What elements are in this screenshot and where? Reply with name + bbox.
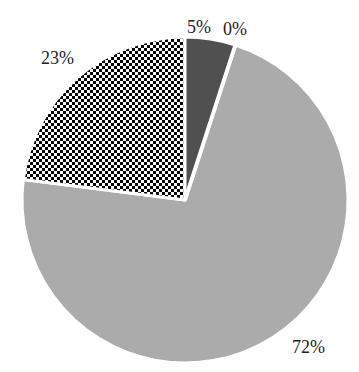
label-5-percent: 5% bbox=[187, 17, 211, 37]
label-23-percent: 23% bbox=[41, 48, 74, 68]
label-72-percent: 72% bbox=[292, 337, 325, 357]
pie-chart: 5% 0% 23% 72% bbox=[0, 0, 359, 372]
label-0-percent: 0% bbox=[223, 19, 247, 39]
